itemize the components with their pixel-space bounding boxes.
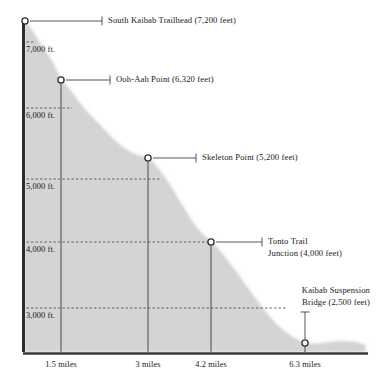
annotation-label-bridge-line-2: Bridge (2,500 feet) — [266, 297, 370, 309]
marker-tonto-trail-junction[interactable] — [208, 239, 214, 245]
elevation-profile-chart: 7,000 ft. 6,000 ft. 5,000 ft. 4,000 ft. … — [0, 0, 379, 385]
annotation-label-ooh-aah-point: Ooh-Aah Point (6,320 feet) — [116, 74, 214, 86]
x-tick-label-2: 3 miles — [135, 360, 160, 369]
annotation-label-kaibab-suspension-bridge: Kaibab Suspension Bridge (2,500 feet) — [266, 285, 370, 308]
annotation-label-tonto-line-2: Junction (4,000 feet) — [268, 248, 374, 260]
chart-canvas — [0, 0, 379, 385]
x-tick-label-4: 6.3 miles — [289, 360, 321, 369]
annotation-label-tonto-line-1: Tonto Trail — [268, 236, 374, 248]
annotation-label-bridge-line-1: Kaibab Suspension — [266, 285, 370, 297]
marker-ooh-aah-point[interactable] — [58, 77, 64, 83]
y-tick-label-4000: 4,000 ft. — [26, 245, 55, 254]
marker-kaibab-suspension-bridge[interactable] — [302, 340, 308, 346]
y-tick-label-3000: 3,000 ft. — [26, 311, 55, 320]
y-tick-label-7000: 7,000 ft. — [26, 45, 55, 54]
marker-south-kaibab-trailhead[interactable] — [22, 18, 28, 24]
x-tick-label-1: 1.5 miles — [45, 360, 77, 369]
x-tick-label-3: 4.2 miles — [195, 360, 227, 369]
marker-skeleton-point[interactable] — [145, 155, 151, 161]
annotation-label-south-kaibab-trailhead: South Kaibab Trailhead (7,200 feet) — [108, 15, 236, 27]
y-tick-label-5000: 5,000 ft. — [26, 182, 55, 191]
annotation-label-tonto-trail-junction: Tonto Trail Junction (4,000 feet) — [268, 236, 374, 259]
y-tick-label-6000: 6,000 ft. — [26, 111, 55, 120]
annotation-label-skeleton-point: Skeleton Point (5,200 feet) — [202, 152, 298, 164]
